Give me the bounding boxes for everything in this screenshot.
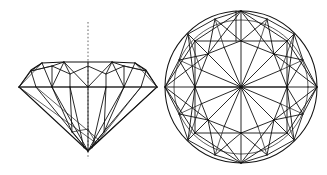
diamond-diagram-svg <box>0 0 327 175</box>
top-view-group <box>165 11 317 163</box>
star-facet-rays <box>195 41 287 133</box>
diamond-figure: Brilliant-cut diamond facet diagram Tech… <box>0 0 327 175</box>
